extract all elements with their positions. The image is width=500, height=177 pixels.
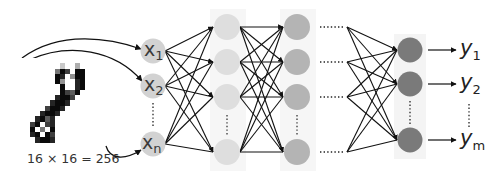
input-digit-image bbox=[20, 58, 100, 143]
digit-pixel bbox=[95, 137, 100, 142]
output-node-2 bbox=[398, 72, 423, 97]
output-label-m: ym bbox=[460, 126, 485, 153]
output-label-2: y2 bbox=[460, 70, 481, 97]
input-label-n: xn bbox=[142, 131, 162, 156]
connections-hidden1-hidden2 bbox=[240, 27, 283, 152]
input-label-2: x2 bbox=[144, 73, 164, 98]
output-label-1: y1 bbox=[460, 36, 481, 63]
connections-hidden-output bbox=[347, 27, 397, 152]
output-node-m bbox=[398, 128, 423, 153]
output-node-1 bbox=[398, 38, 423, 63]
image-size-caption: 16 × 16 = 256 bbox=[27, 151, 120, 166]
continuation-dots bbox=[320, 27, 345, 152]
output-arrows bbox=[428, 50, 456, 140]
connections-input-hidden1 bbox=[165, 27, 213, 152]
input-label-1: x1 bbox=[144, 38, 164, 63]
